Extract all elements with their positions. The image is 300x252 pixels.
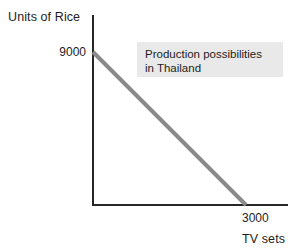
x-axis-title: TV sets [242, 232, 285, 246]
x-axis-line [92, 204, 288, 206]
y-axis-title: Units of Rice [8, 10, 80, 24]
annotation-line-1: Production possibilities [145, 47, 276, 61]
y-intercept-value-label: 9000 [59, 45, 86, 59]
x-intercept-value-label: 3000 [242, 211, 269, 225]
annotation-line-2: in Thailand [145, 61, 276, 75]
ppf-figure: Units of Rice 9000 3000 TV sets Producti… [0, 0, 300, 252]
y-axis-line [92, 15, 94, 206]
annotation-callout: Production possibilities in Thailand [137, 42, 283, 77]
